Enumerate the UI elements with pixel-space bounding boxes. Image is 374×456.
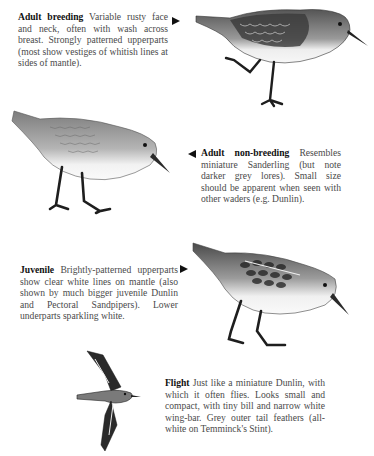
caption-flight: Flight Just like a miniature Dunlin, wit… bbox=[165, 377, 325, 435]
caption-title: Adult breeding bbox=[18, 11, 83, 22]
caption-adult-non-breeding: Adult non-breeding Resembles miniature S… bbox=[201, 147, 341, 205]
pointer-right-icon bbox=[172, 17, 180, 25]
adult-breeding-bird-illustration bbox=[190, 0, 374, 115]
caption-title: Flight bbox=[165, 377, 190, 388]
caption-adult-breeding: Adult breeding Variable rusty face and n… bbox=[18, 11, 168, 69]
juvenile-bird-illustration bbox=[185, 235, 374, 355]
bird-body bbox=[77, 351, 141, 451]
adult-non-breeding-bird-illustration bbox=[0, 105, 180, 220]
bird-body bbox=[12, 111, 170, 180]
flight-bird-illustration bbox=[75, 345, 165, 456]
bird-body bbox=[193, 243, 349, 315]
caption-title: Adult non-breeding bbox=[201, 147, 289, 158]
bird-body bbox=[196, 10, 368, 63]
caption-title: Juvenile bbox=[20, 264, 54, 275]
bird-legs bbox=[226, 58, 282, 106]
pointer-left-icon bbox=[188, 150, 196, 158]
caption-juvenile: Juvenile Brightly-patterned upperparts s… bbox=[20, 264, 178, 322]
